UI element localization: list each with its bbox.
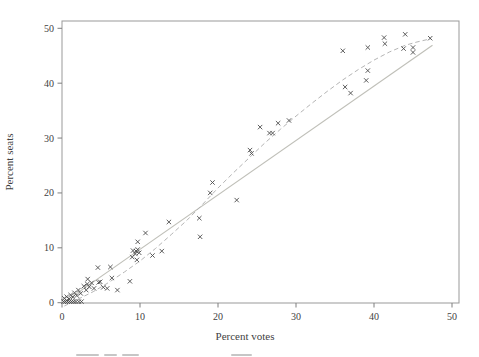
data-point-x-marker — [92, 286, 96, 290]
data-point-x-marker — [341, 49, 345, 53]
truncated-caption-fragment — [76, 354, 99, 356]
x-axis-ticks: 01020304050 — [60, 303, 458, 322]
y-tick-label: 20 — [44, 187, 54, 198]
data-point-x-marker — [382, 35, 386, 39]
y-axis-label: Percent seats — [3, 133, 15, 190]
x-tick-label: 20 — [213, 311, 223, 322]
data-point-x-marker — [108, 265, 112, 269]
data-point-x-marker — [235, 198, 239, 202]
data-point-x-marker — [96, 265, 100, 269]
data-point-x-marker — [411, 45, 415, 49]
truncated-caption-fragment — [231, 354, 252, 356]
x-tick-label: 0 — [60, 311, 65, 322]
plot-frame — [62, 21, 459, 303]
data-point-x-marker — [86, 277, 90, 281]
data-point-x-marker — [115, 288, 119, 292]
data-point-x-marker — [366, 68, 370, 72]
y-tick-label: 10 — [44, 242, 54, 253]
data-point-x-marker — [101, 285, 105, 289]
data-point-x-marker — [110, 276, 114, 280]
data-point-x-marker — [150, 253, 154, 257]
data-point-x-marker — [197, 216, 201, 220]
x-tick-label: 50 — [447, 311, 457, 322]
data-point-x-marker — [270, 131, 274, 135]
data-point-x-marker — [167, 220, 171, 224]
data-point-x-marker — [198, 235, 202, 239]
data-point-x-marker — [343, 85, 347, 89]
y-tick-label: 30 — [44, 133, 54, 144]
curved-fit-line — [64, 39, 431, 306]
fit-lines — [64, 39, 432, 306]
data-point-x-marker — [258, 125, 262, 129]
data-point-x-marker — [276, 121, 280, 125]
straight-fit-line — [64, 45, 432, 302]
data-point-x-marker — [428, 36, 432, 40]
data-point-x-marker — [89, 281, 93, 285]
x-axis-label: Percent votes — [216, 330, 275, 342]
y-tick-label: 40 — [44, 78, 54, 89]
x-tick-label: 40 — [369, 311, 379, 322]
data-point-x-marker — [403, 32, 407, 36]
x-tick-label: 30 — [291, 311, 301, 322]
data-point-x-marker — [366, 45, 370, 49]
data-point-x-marker — [160, 249, 164, 253]
data-point-x-marker — [364, 78, 368, 82]
data-point-x-marker — [383, 42, 387, 46]
truncated-caption-fragment — [122, 354, 139, 356]
data-point-x-marker — [208, 191, 212, 195]
y-tick-label: 50 — [44, 23, 54, 34]
data-point-x-marker — [136, 240, 140, 244]
truncated-caption-fragment — [104, 354, 117, 356]
seats-votes-scatter-chart: 01020304050 01020304050 Percent votes Pe… — [0, 0, 479, 357]
data-point-x-marker — [105, 286, 109, 290]
scatter-markers — [61, 32, 432, 304]
data-point-x-marker — [401, 46, 405, 50]
data-point-x-marker — [348, 91, 352, 95]
x-tick-label: 10 — [135, 311, 145, 322]
data-point-x-marker — [210, 180, 214, 184]
data-point-x-marker — [135, 258, 139, 262]
y-axis-ticks: 01020304050 — [44, 23, 62, 308]
y-tick-label: 0 — [49, 297, 54, 308]
data-point-x-marker — [143, 231, 147, 235]
data-point-x-marker — [128, 279, 132, 283]
data-point-x-marker — [411, 50, 415, 54]
figure-canvas: 01020304050 01020304050 Percent votes Pe… — [0, 0, 479, 357]
